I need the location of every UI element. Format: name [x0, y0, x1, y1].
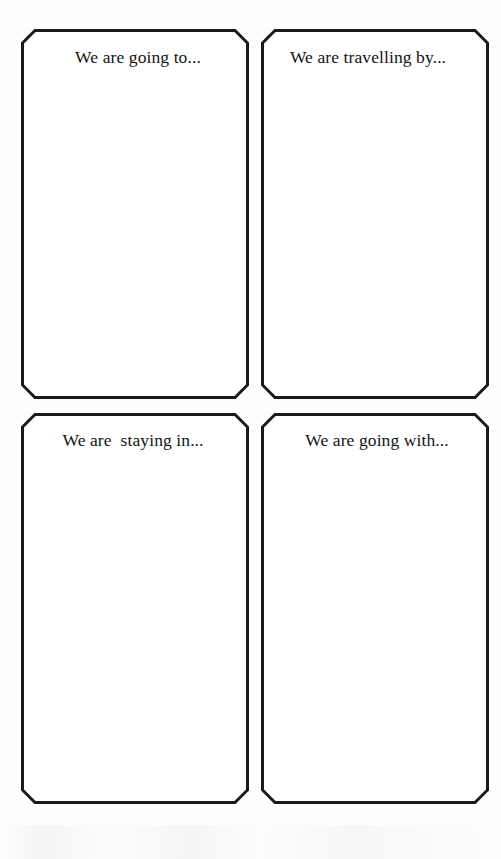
prompt-card-label-travelling-by: We are travelling by...: [261, 47, 489, 67]
prompt-card-staying-in[interactable]: We are staying in...: [21, 413, 249, 804]
prompt-card-label-staying-in: We are staying in...: [21, 430, 249, 450]
prompt-card-going-with[interactable]: We are going with...: [261, 413, 489, 804]
worksheet-page: We are going to... We are travelling by.…: [0, 0, 501, 859]
prompt-card-label-going-to: We are going to...: [21, 47, 249, 67]
prompt-card-label-going-with: We are going with...: [261, 430, 489, 450]
scan-artifact-speckle: [0, 825, 501, 859]
card-outline-going-to: [21, 29, 249, 399]
card-outline-going-with: [261, 413, 489, 804]
card-outline-staying-in: [21, 413, 249, 804]
prompt-card-going-to[interactable]: We are going to...: [21, 29, 249, 399]
card-outline-travelling-by: [261, 29, 489, 399]
prompt-card-travelling-by[interactable]: We are travelling by...: [261, 29, 489, 399]
